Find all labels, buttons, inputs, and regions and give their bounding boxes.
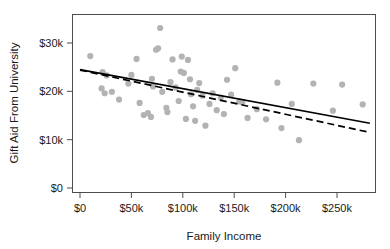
plot-canvas: $0$10k$20k$30k $0$50k$100k$150k$200k$250… bbox=[0, 0, 390, 249]
data-point bbox=[187, 76, 193, 82]
data-point bbox=[87, 53, 93, 59]
data-point bbox=[109, 89, 115, 95]
data-point bbox=[190, 103, 196, 109]
y-axis-ticks: $0$10k$20k$30k bbox=[39, 37, 72, 194]
data-point bbox=[278, 125, 284, 131]
data-point bbox=[360, 101, 366, 107]
y-tick-label-0: $0 bbox=[51, 182, 63, 194]
data-point bbox=[263, 116, 269, 122]
y-tick-label-3: $30k bbox=[39, 37, 63, 49]
data-point bbox=[167, 79, 173, 85]
data-point bbox=[206, 101, 212, 107]
plot-frame bbox=[73, 15, 376, 193]
data-point bbox=[196, 80, 202, 86]
x-axis-title: Family Income bbox=[187, 230, 262, 242]
data-point bbox=[133, 56, 139, 62]
data-point bbox=[224, 77, 230, 83]
scatterplot-figure: $0$10k$20k$30k $0$50k$100k$150k$200k$250… bbox=[0, 0, 390, 249]
data-point bbox=[232, 65, 238, 71]
data-point bbox=[244, 115, 250, 121]
data-point bbox=[125, 81, 131, 87]
x-tick-label-1: $50k bbox=[119, 202, 143, 214]
data-point bbox=[169, 56, 175, 62]
scatter-points-layer bbox=[87, 25, 366, 143]
data-point bbox=[296, 137, 302, 143]
data-point bbox=[159, 89, 165, 95]
data-point bbox=[185, 57, 191, 63]
data-point bbox=[181, 70, 187, 76]
data-point bbox=[221, 111, 227, 117]
data-point bbox=[202, 123, 208, 129]
data-point bbox=[155, 45, 161, 51]
data-point bbox=[274, 80, 280, 86]
data-point bbox=[192, 118, 198, 124]
x-tick-label-0: $0 bbox=[74, 202, 86, 214]
data-point bbox=[183, 116, 189, 122]
data-point bbox=[157, 25, 163, 31]
data-point bbox=[102, 90, 108, 96]
x-tick-label-2: $100k bbox=[168, 202, 198, 214]
data-point bbox=[310, 81, 316, 87]
data-point bbox=[339, 81, 345, 87]
x-tick-label-5: $250k bbox=[322, 202, 352, 214]
data-point bbox=[214, 107, 220, 113]
data-point bbox=[176, 98, 182, 104]
y-tick-label-1: $10k bbox=[39, 134, 63, 146]
y-tick-label-2: $20k bbox=[39, 85, 63, 97]
data-point bbox=[164, 109, 170, 115]
data-point bbox=[148, 114, 154, 120]
data-point bbox=[179, 53, 185, 59]
data-point bbox=[289, 101, 295, 107]
x-axis-ticks: $0$50k$100k$150k$200k$250k bbox=[74, 193, 353, 215]
data-point bbox=[149, 76, 155, 82]
x-tick-label-4: $200k bbox=[271, 202, 301, 214]
x-tick-label-3: $150k bbox=[219, 202, 249, 214]
y-axis-title: Gift Aid From University bbox=[8, 42, 20, 163]
data-point bbox=[137, 100, 143, 106]
data-point bbox=[116, 96, 122, 102]
data-point bbox=[330, 108, 336, 114]
data-point bbox=[128, 72, 134, 78]
